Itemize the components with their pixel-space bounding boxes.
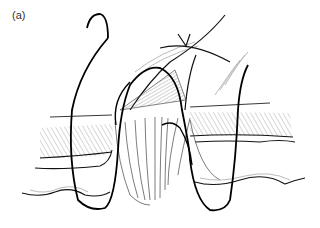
illustration-drawing	[0, 0, 320, 228]
dermis-right	[190, 112, 292, 136]
fascia-line	[22, 177, 305, 196]
suture-thread	[71, 14, 248, 210]
hatched-wedge	[120, 70, 186, 110]
suture-illustration: (a)	[0, 0, 320, 228]
